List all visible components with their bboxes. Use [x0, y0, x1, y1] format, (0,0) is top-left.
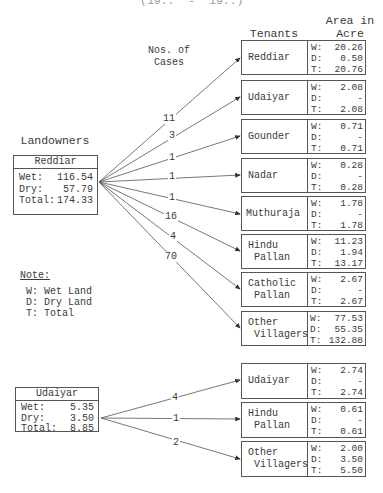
- d-label: D:: [311, 285, 322, 296]
- w-value: 2.74: [340, 365, 363, 376]
- w-label: W:: [310, 313, 321, 324]
- wet-label: Wet:: [19, 172, 43, 184]
- total-value: 8.85: [70, 424, 94, 435]
- t-value: 0.71: [340, 143, 363, 154]
- tenant-name: Other Villagers: [242, 312, 308, 345]
- tenant-area: W:0.71 D:- T:0.71: [308, 120, 365, 153]
- landowner-box-reddiar: Reddiar Wet:116.54 Dry:57.79 Total:174.3…: [13, 155, 98, 215]
- d-label: D:: [311, 454, 322, 465]
- w-label: W:: [311, 198, 322, 209]
- w-value: 20.26: [334, 42, 363, 53]
- tenant-box-reddiar: Reddiar W:20.26 D:0.50 T:20.76: [241, 40, 366, 75]
- w-label: W:: [311, 42, 322, 53]
- tenant-box-udaiyar: Udaiyar W:2.08 D:- T:2.08: [241, 80, 366, 115]
- tenant-area: W:1.78 D:- T:1.78: [308, 197, 365, 230]
- landowner-name: Udaiyar: [16, 388, 98, 401]
- t-value: 13.17: [334, 258, 363, 269]
- tenant-name: Udaiyar: [242, 364, 308, 398]
- d-value: -: [357, 209, 363, 220]
- d-label: D:: [311, 93, 322, 104]
- d-value: -: [357, 285, 363, 296]
- t-label: T:: [311, 220, 322, 231]
- t-label: T:: [311, 426, 322, 437]
- d-value: 55.35: [334, 324, 363, 335]
- dry-label: Dry:: [19, 184, 43, 196]
- d-value: -: [357, 376, 363, 387]
- tenant-area: W:0.28 D:- T:0.28: [308, 159, 365, 192]
- w-label: W:: [311, 160, 322, 171]
- t-label: T:: [311, 258, 322, 269]
- tenant-box-other-villagers: Other Villagers W:77.53 D:55.35 T:132.88: [241, 311, 366, 346]
- tenant-name: Reddiar: [242, 41, 308, 74]
- case-count: 1: [172, 414, 180, 424]
- note-item: T: Total: [26, 308, 74, 319]
- d-value: -: [357, 415, 363, 426]
- d-label: D:: [311, 247, 322, 258]
- tenant-area: W:0.61 D:- T:0.61: [308, 403, 365, 437]
- t-label: T:: [311, 182, 322, 193]
- case-count: 70: [164, 252, 178, 262]
- t-label: T:: [311, 143, 322, 154]
- tenant-box-gounder: Gounder W:0.71 D:- T:0.71: [241, 119, 366, 154]
- total-label: Total:: [19, 195, 55, 207]
- note-item: D: Dry Land: [26, 297, 92, 308]
- w-label: W:: [311, 274, 322, 285]
- t-label: T:: [311, 104, 322, 115]
- tenant-box-nadar: Nadar W:0.28 D:- T:0.28: [241, 158, 366, 193]
- wet-label: Wet:: [21, 403, 45, 414]
- t-label: T:: [311, 387, 322, 398]
- w-value: 0.71: [340, 121, 363, 132]
- tenant-name: Other Villagers: [242, 442, 308, 476]
- total-label: Total:: [21, 424, 57, 435]
- t-value: 0.61: [340, 426, 363, 437]
- case-count: 4: [169, 232, 177, 242]
- d-value: 0.50: [340, 53, 363, 64]
- d-label: D:: [311, 171, 322, 182]
- t-value: 0.28: [340, 182, 363, 193]
- w-value: 11.23: [334, 236, 363, 247]
- tenant-box-udaiyar-2: Udaiyar W:2.74 D:- T:2.74: [241, 363, 366, 399]
- tenant-name: Gounder: [242, 120, 308, 153]
- d-value: -: [357, 132, 363, 143]
- w-value: 0.61: [340, 404, 363, 415]
- case-count: 1: [168, 172, 176, 182]
- w-label: W:: [311, 404, 322, 415]
- t-value: 1.78: [340, 220, 363, 231]
- case-count: 16: [164, 212, 178, 222]
- total-value: 174.33: [57, 195, 93, 207]
- tenant-area: W:11.23 D:1.94 T:13.17: [308, 235, 365, 268]
- tenant-area: W:2.00 D:3.50 T:5.50: [308, 442, 365, 476]
- d-value: -: [357, 171, 363, 182]
- w-label: W:: [311, 236, 322, 247]
- w-value: 2.67: [340, 274, 363, 285]
- w-label: W:: [311, 443, 322, 454]
- tenant-area: W:2.08 D:- T:2.08: [308, 81, 365, 114]
- tenant-name: Muthuraja: [242, 197, 308, 230]
- tenant-name: Hindu Pallan: [242, 235, 308, 268]
- tenant-box-catholic-pallan: Catholic Pallan W:2.67 D:- T:2.67: [241, 272, 366, 307]
- w-label: W:: [311, 365, 322, 376]
- t-value: 2.74: [340, 387, 363, 398]
- t-value: 2.08: [340, 104, 363, 115]
- tenant-name: Hindu Pallan: [242, 403, 308, 437]
- t-value: 132.88: [329, 335, 363, 346]
- case-count: 2: [172, 438, 180, 448]
- t-label: T:: [311, 64, 322, 75]
- w-value: 1.78: [340, 198, 363, 209]
- case-count: 3: [168, 131, 176, 141]
- d-label: D:: [311, 132, 322, 143]
- d-value: 1.94: [340, 247, 363, 258]
- d-label: D:: [311, 415, 322, 426]
- t-value: 5.50: [340, 465, 363, 476]
- wet-value: 116.54: [57, 172, 93, 184]
- w-label: W:: [311, 121, 322, 132]
- tenant-area: W:2.67 D:- T:2.67: [308, 273, 365, 306]
- landowner-name: Reddiar: [14, 156, 97, 169]
- landowner-box-udaiyar: Udaiyar Wet:5.35 Dry:3.50 Total:8.85: [15, 387, 99, 432]
- w-value: 0.28: [340, 160, 363, 171]
- case-count: 11: [162, 114, 176, 124]
- dry-value: 57.79: [63, 184, 93, 196]
- case-count: 4: [171, 393, 179, 403]
- wet-value: 5.35: [70, 403, 94, 414]
- tenant-name: Udaiyar: [242, 81, 308, 114]
